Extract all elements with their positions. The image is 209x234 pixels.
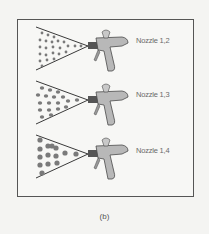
nozzle-label-3: Nozzle 1,4 [136, 146, 169, 155]
spray-gun-icon [88, 84, 128, 125]
spray-gun-icon [88, 30, 128, 71]
figure-caption: (b) [0, 212, 209, 221]
nozzle-row-2: Nozzle 1,3 [18, 78, 193, 132]
nozzle-label-1: Nozzle 1,2 [136, 36, 169, 45]
spray-gun-icon [88, 138, 128, 179]
nozzle-row-1: Nozzle 1,2 [18, 24, 193, 78]
spray-cone-large-droplets-icon [18, 132, 195, 186]
nozzle-label-2: Nozzle 1,3 [136, 90, 169, 99]
spray-cone-medium-droplets-icon [18, 78, 195, 132]
spray-cone-small-droplets-icon [18, 24, 195, 78]
nozzle-row-3: Nozzle 1,4 [18, 132, 193, 186]
figure-frame: Nozzle 1,2 Nozzle 1,3 [17, 19, 194, 197]
